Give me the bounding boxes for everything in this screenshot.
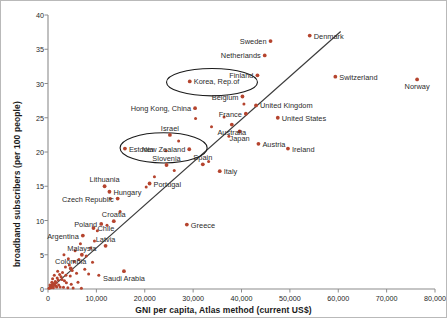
point-label: Spain [193, 153, 212, 162]
data-point-latvia [104, 244, 108, 248]
data-point [153, 175, 156, 178]
x-tick-label: 40,000 [231, 294, 253, 303]
point-label: Portugal [154, 179, 182, 188]
data-point-denmark [308, 34, 312, 38]
point-label: Malaysia [67, 243, 96, 252]
point-label: Chile [97, 224, 114, 233]
data-point [61, 271, 64, 274]
x-tick-label: 80,000 [424, 294, 446, 303]
point-label: Denmark [314, 31, 344, 40]
data-point [83, 268, 86, 271]
data-point-hong-kong-china [193, 106, 197, 110]
data-point-greece [185, 223, 189, 227]
data-point [50, 281, 53, 284]
data-point [57, 279, 60, 282]
y-tick-label: 30 [26, 79, 44, 88]
data-point-saudi-arabia [122, 269, 126, 273]
x-tick-label: 20,000 [134, 294, 156, 303]
y-tick-label: 20 [26, 148, 44, 157]
y-tick-label: 0 [26, 285, 44, 294]
point-label: Slovenia [152, 154, 180, 163]
point-label: Lithuania [90, 175, 120, 184]
data-point [75, 272, 78, 275]
data-point [242, 103, 245, 106]
data-point [145, 185, 148, 188]
point-label: Sweden [240, 37, 267, 46]
x-tick-label: 10,000 [85, 294, 107, 303]
data-point-estonia [123, 147, 127, 151]
point-label: France [219, 109, 242, 118]
data-point-new-zealand [187, 147, 191, 151]
data-point-slovenia [165, 163, 169, 167]
point-label: Austria [262, 139, 285, 148]
point-label: Israel [161, 123, 179, 132]
point-label: United Kingdom [260, 101, 313, 110]
data-point [177, 140, 180, 143]
point-label: Argentina [47, 231, 79, 240]
point-label: Switzerland [339, 72, 377, 81]
data-point [47, 287, 50, 290]
data-point [80, 287, 83, 290]
x-tick-label: 60,000 [327, 294, 349, 303]
data-point-colombia [69, 267, 73, 271]
data-point [69, 274, 72, 277]
data-point-ireland [286, 147, 290, 151]
data-point-hungary [108, 190, 112, 194]
data-point [173, 169, 176, 172]
point-label: Norway [405, 82, 430, 91]
broadband-scatter-chart: 010,00020,00030,00040,00050,00060,00070,… [0, 0, 447, 318]
point-label: Italy [224, 167, 238, 176]
y-tick-label: 40 [26, 11, 44, 20]
point-label: Poland [74, 219, 97, 228]
data-point-united-states [276, 116, 280, 120]
data-point [66, 286, 69, 289]
point-label: Estonia [129, 144, 154, 153]
data-point-lithuania [103, 184, 107, 188]
data-point-czech-republic [116, 197, 120, 201]
data-point [51, 277, 54, 280]
data-point-united-kingdom [254, 104, 258, 108]
point-label: Hong Kong, China [131, 104, 191, 113]
point-label: Saudi Arabia [103, 274, 145, 283]
y-axis-title: broadband subscribers (per 100 people) [12, 101, 22, 267]
data-point [62, 253, 65, 256]
data-point [97, 274, 100, 277]
y-tick-label: 15 [26, 182, 44, 191]
data-point [53, 274, 56, 277]
data-point [60, 275, 63, 278]
data-point [76, 281, 79, 284]
x-axis-title: GNI per capita, Atlas method (current US… [1, 305, 446, 315]
y-tick-label: 35 [26, 45, 44, 54]
data-point-spain [201, 162, 205, 166]
data-point [87, 272, 90, 275]
x-tick-label: 30,000 [182, 294, 204, 303]
point-label: United States [282, 113, 326, 122]
point-label: Czech Republic [62, 194, 114, 203]
y-tick-label: 10 [26, 216, 44, 225]
data-point-israel [168, 133, 172, 137]
x-tick-label: 50,000 [279, 294, 301, 303]
data-point [64, 274, 67, 277]
data-point [63, 279, 66, 282]
point-label: Ireland [292, 144, 315, 153]
data-point [210, 125, 213, 128]
plot-area [1, 1, 447, 318]
data-point-austria [257, 142, 261, 146]
y-tick-label: 5 [26, 250, 44, 259]
data-point [48, 283, 51, 286]
x-tick-label: 70,000 [376, 294, 398, 303]
data-point-belgium [241, 95, 245, 99]
data-point-sweden [269, 39, 273, 43]
data-point-switzerland [333, 75, 337, 79]
point-label: Finland [229, 71, 253, 80]
data-point-argentina [81, 234, 85, 238]
point-label: Greece [191, 220, 215, 229]
data-point [62, 286, 65, 289]
data-point [56, 270, 59, 273]
data-point-croatia [112, 219, 116, 223]
data-point-france [244, 112, 248, 116]
data-point-finland [256, 73, 260, 77]
point-label: Japan [229, 134, 249, 143]
data-point [57, 283, 60, 286]
data-point [54, 284, 57, 287]
